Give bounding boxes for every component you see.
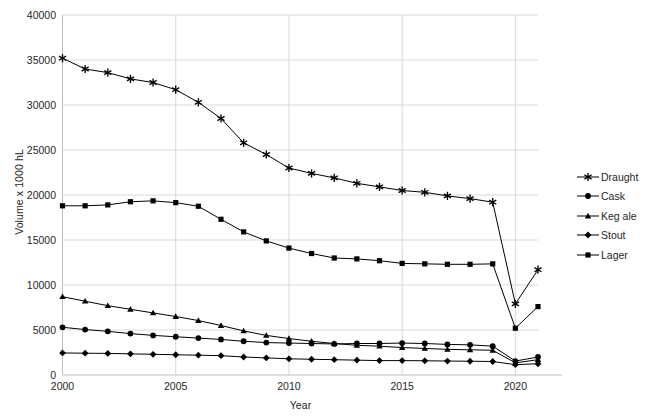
data-point-marker xyxy=(104,350,111,357)
data-point-marker xyxy=(422,261,427,266)
data-point-marker xyxy=(263,355,270,362)
legend-marker-icon xyxy=(576,189,600,203)
legend-marker-icon xyxy=(576,228,600,242)
legend-item-label: Cask xyxy=(601,190,625,202)
data-point-marker xyxy=(285,164,292,172)
data-point-marker xyxy=(421,357,428,364)
data-point-marker xyxy=(173,200,178,205)
data-point-marker xyxy=(585,252,590,257)
data-point-marker xyxy=(444,358,451,365)
data-point-marker xyxy=(150,333,156,339)
data-point-marker xyxy=(173,334,179,340)
series-line xyxy=(63,58,539,304)
data-point-marker xyxy=(82,350,89,357)
legend-marker-icon xyxy=(576,248,600,262)
data-point-marker xyxy=(241,229,246,234)
data-point-marker xyxy=(105,202,110,207)
data-point-marker xyxy=(172,351,179,358)
series-line xyxy=(63,327,539,361)
data-point-marker xyxy=(263,340,269,346)
data-point-marker xyxy=(308,356,315,363)
line-chart: 0500010000150002000025000300003500040000… xyxy=(0,0,660,416)
data-point-marker xyxy=(150,351,157,358)
data-point-marker xyxy=(535,304,540,309)
data-point-marker xyxy=(105,328,111,334)
legend-item-cask[interactable]: Cask xyxy=(576,187,660,207)
legend-item-label: Lager xyxy=(601,249,628,261)
legend-marker-icon xyxy=(576,170,600,184)
series-line xyxy=(63,201,539,328)
data-point-marker xyxy=(400,261,405,266)
data-point-marker xyxy=(128,331,134,337)
data-point-marker xyxy=(218,217,223,222)
data-point-marker xyxy=(128,199,133,204)
data-point-marker xyxy=(82,327,88,333)
data-point-marker xyxy=(490,261,495,266)
series-line xyxy=(63,353,539,365)
data-point-marker xyxy=(59,54,66,62)
data-point-marker xyxy=(331,356,338,363)
data-point-marker xyxy=(585,193,591,199)
series-stout xyxy=(59,350,541,369)
data-point-marker xyxy=(60,324,66,330)
data-point-marker xyxy=(83,203,88,208)
data-point-marker xyxy=(240,354,247,361)
data-point-marker xyxy=(60,203,65,208)
data-point-marker xyxy=(445,262,450,267)
data-point-marker xyxy=(264,238,269,243)
data-point-marker xyxy=(376,357,383,364)
data-point-marker xyxy=(59,350,66,357)
data-point-marker xyxy=(377,258,382,263)
data-point-marker xyxy=(585,232,592,239)
data-point-marker xyxy=(172,86,179,94)
data-point-marker xyxy=(127,350,134,357)
plot-area xyxy=(0,0,660,416)
data-point-marker xyxy=(218,352,225,359)
data-point-marker xyxy=(286,246,291,251)
data-point-marker xyxy=(489,358,496,365)
data-point-marker xyxy=(399,357,406,364)
legend-item-label: Keg ale xyxy=(601,210,637,222)
data-point-marker xyxy=(196,204,201,209)
data-point-marker xyxy=(467,358,474,365)
legend-item-label: Draught xyxy=(601,171,638,183)
data-point-marker xyxy=(241,338,247,344)
data-point-marker xyxy=(309,251,314,256)
data-point-marker xyxy=(263,150,270,158)
legend-item-keg-ale[interactable]: Keg ale xyxy=(576,206,660,226)
legend-item-lager[interactable]: Lager xyxy=(576,245,660,265)
series-draught xyxy=(59,54,542,308)
data-point-marker xyxy=(59,294,65,300)
data-point-marker xyxy=(354,256,359,261)
data-point-marker xyxy=(286,340,292,346)
chart-legend: DraughtCaskKeg aleStoutLager xyxy=(576,167,660,265)
data-point-marker xyxy=(286,355,293,362)
data-point-marker xyxy=(467,262,472,267)
data-point-marker xyxy=(513,326,518,331)
data-point-marker xyxy=(150,198,155,203)
data-point-marker xyxy=(218,337,224,343)
legend-item-stout[interactable]: Stout xyxy=(576,226,660,246)
data-point-marker xyxy=(353,357,360,364)
legend-item-label: Stout xyxy=(601,229,626,241)
data-point-marker xyxy=(195,352,202,359)
legend-item-draught[interactable]: Draught xyxy=(576,167,660,187)
data-point-marker xyxy=(332,255,337,260)
legend-marker-icon xyxy=(576,209,600,223)
data-point-marker xyxy=(195,335,201,341)
